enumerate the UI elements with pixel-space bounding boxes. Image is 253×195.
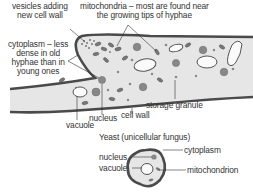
label-mitochondria: mitochondria – most are found near the g… bbox=[80, 2, 209, 20]
label-storage-granule: storage granule bbox=[146, 101, 203, 110]
yeast-label-cytoplasm: cytoplasm bbox=[184, 146, 221, 155]
yeast-vacuole bbox=[141, 164, 153, 175]
label-cytoplasm: cytoplasm – less dense in old hyphae tha… bbox=[8, 40, 68, 76]
yeast-title: Yeast (unicellular fungus) bbox=[99, 133, 190, 142]
yeast-label-vacuole: vacuole bbox=[99, 164, 127, 173]
label-cell-wall: cell wall bbox=[121, 111, 149, 120]
label-vesicles: vesicles adding new cell wall bbox=[12, 2, 68, 20]
label-vacuole: vacuole bbox=[66, 121, 94, 130]
leader-cytoplasm-1 bbox=[68, 55, 78, 61]
yeast-nucleus bbox=[151, 154, 156, 159]
yeast-label-mitochondrion: mitochondrion bbox=[187, 166, 238, 175]
yeast-label-nucleus: nucleus bbox=[99, 153, 127, 162]
